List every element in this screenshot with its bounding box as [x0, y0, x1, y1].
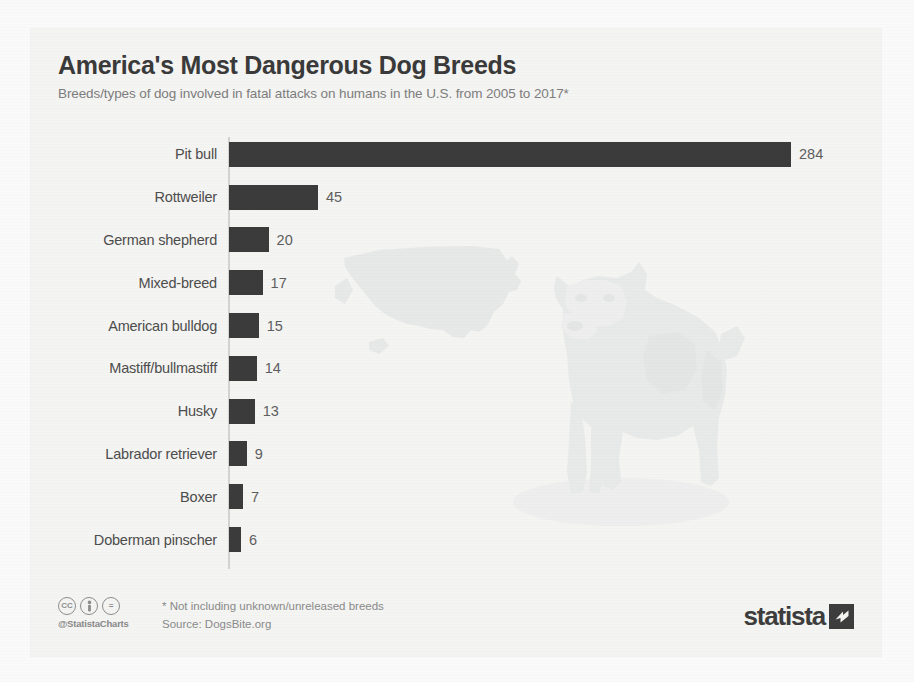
bar [229, 227, 269, 252]
footer-left: CC = @StatistaCharts * Not including unk… [58, 597, 384, 634]
footnote-text: * Not including unknown/unreleased breed… [162, 598, 384, 616]
bar-row: American bulldog15 [31, 304, 881, 347]
statista-wordmark: statista [744, 603, 825, 629]
bar-category-label: German shepherd [31, 232, 217, 248]
chart-title: America's Most Dangerous Dog Breeds [58, 51, 848, 79]
bar-wrapper: 17 [229, 270, 287, 295]
bar-value-label: 284 [799, 146, 823, 162]
bar-value-label: 9 [255, 446, 263, 462]
bar-wrapper: 7 [229, 484, 259, 509]
source-text: Source: DogsBite.org [162, 616, 384, 634]
bar-value-label: 20 [277, 232, 293, 248]
bar-chart-plot: Pit bull284Rottweiler45German shepherd20… [31, 133, 881, 573]
bar-value-label: 17 [271, 275, 287, 291]
bar-row: German shepherd20 [31, 219, 881, 262]
bar-category-label: American bulldog [31, 318, 217, 334]
chart-subtitle: Breeds/types of dog involved in fatal at… [58, 86, 848, 102]
bar [229, 356, 257, 381]
cc-nd-equals-icon: = [102, 597, 120, 615]
bar-category-label: Labrador retriever [31, 446, 217, 462]
bar-wrapper: 15 [229, 313, 283, 338]
bar-wrapper: 6 [229, 527, 257, 552]
bar-row: Rottweiler45 [31, 176, 881, 219]
statista-mark-icon [829, 604, 854, 629]
bar [229, 527, 241, 552]
infographic-card: America's Most Dangerous Dog Breeds Bree… [31, 29, 881, 656]
creative-commons-block: CC = @StatistaCharts [58, 597, 154, 629]
bar-wrapper: 45 [229, 185, 342, 210]
photographed-page: America's Most Dangerous Dog Breeds Bree… [0, 0, 914, 682]
chart-footer: CC = @StatistaCharts * Not including unk… [58, 597, 854, 634]
bar [229, 142, 791, 167]
bar-wrapper: 9 [229, 441, 263, 466]
bar-row: Mastiff/bullmastiff14 [31, 347, 881, 390]
bar-value-label: 13 [263, 403, 279, 419]
bar-row: Doberman pinscher6 [31, 518, 881, 561]
bar-rows: Pit bull284Rottweiler45German shepherd20… [31, 133, 881, 561]
bar-wrapper: 14 [229, 356, 281, 381]
bar-value-label: 14 [265, 360, 281, 376]
creative-commons-icons: CC = [58, 597, 154, 615]
bar [229, 185, 318, 210]
bar [229, 441, 247, 466]
statista-chevron-glyph [833, 607, 851, 625]
bar-row: Pit bull284 [31, 133, 881, 176]
bar-category-label: Mastiff/bullmastiff [31, 360, 217, 376]
bar-wrapper: 284 [229, 142, 823, 167]
bar-row: Labrador retriever9 [31, 433, 881, 476]
bar-row: Husky13 [31, 390, 881, 433]
bar-category-label: Rottweiler [31, 189, 217, 205]
bar-category-label: Boxer [31, 489, 217, 505]
bar-category-label: Pit bull [31, 146, 217, 162]
bar-value-label: 7 [251, 489, 259, 505]
bar-value-label: 15 [267, 318, 283, 334]
bar-category-label: Husky [31, 403, 217, 419]
bar-category-label: Doberman pinscher [31, 532, 217, 548]
cc-by-person-icon [80, 597, 98, 615]
bar [229, 313, 259, 338]
bar-wrapper: 20 [229, 227, 293, 252]
person-glyph [84, 600, 95, 612]
bar-wrapper: 13 [229, 399, 279, 424]
cc-icon: CC [58, 597, 76, 615]
statista-logo: statista [744, 597, 854, 629]
bar-row: Mixed-breed17 [31, 261, 881, 304]
footer-notes: * Not including unknown/unreleased breed… [162, 597, 384, 634]
bar [229, 270, 263, 295]
chart-header: America's Most Dangerous Dog Breeds Bree… [58, 51, 848, 102]
bar-category-label: Mixed-breed [31, 275, 217, 291]
bar [229, 399, 255, 424]
bar-value-label: 45 [326, 189, 342, 205]
bar [229, 484, 243, 509]
statista-handle: @StatistaCharts [58, 618, 154, 629]
bar-value-label: 6 [249, 532, 257, 548]
bar-row: Boxer7 [31, 475, 881, 518]
